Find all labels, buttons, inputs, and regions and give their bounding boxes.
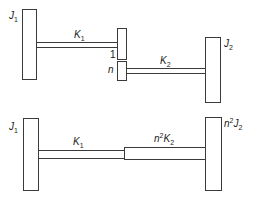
- top-geared-system: J1 K1 1 n K2 J2: [8, 10, 233, 103]
- shaft-k1-bottom: [39, 151, 125, 159]
- inertia-n2j2-bottom: [206, 118, 222, 191]
- gear-n: [118, 62, 127, 81]
- label-k2-top: K2: [160, 55, 171, 68]
- label-k1-bottom: K1: [73, 136, 84, 149]
- label-n2k2-bottom: n2K2: [154, 132, 174, 146]
- inertia-j1-top: [23, 10, 37, 80]
- label-gear-1: 1: [110, 49, 116, 60]
- gear-1: [118, 29, 127, 60]
- shaft-n2k2-bottom: [125, 148, 206, 160]
- shaft-k1-top: [37, 43, 118, 48]
- inertia-j1-bottom: [24, 119, 39, 191]
- label-n2j2-bottom: n2J2: [224, 117, 242, 131]
- bottom-equivalent-system: J1 K1 n2K2 n2J2: [8, 117, 242, 191]
- label-k1-top: K1: [74, 29, 85, 42]
- inertia-j2-top: [206, 38, 221, 103]
- geared-system-diagram: J1 K1 1 n K2 J2 J1 K1 n2K2 n2J2: [0, 0, 254, 198]
- label-gear-n: n: [108, 64, 114, 75]
- label-j2-top: J2: [223, 38, 233, 51]
- label-j1-bottom: J1: [8, 121, 18, 134]
- shaft-k2-top: [127, 69, 206, 74]
- label-j1-top: J1: [8, 10, 18, 23]
